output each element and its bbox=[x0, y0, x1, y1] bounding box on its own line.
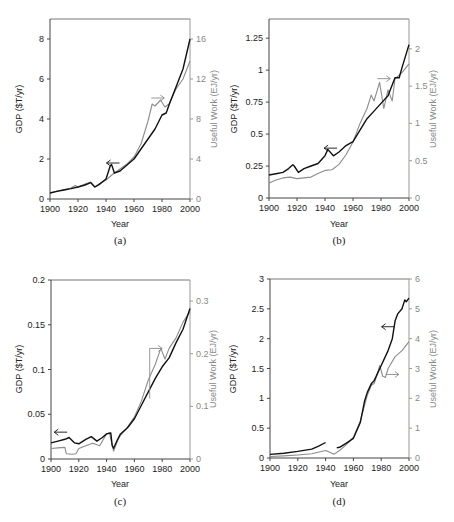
x-tick-label: 1920 bbox=[287, 203, 307, 213]
y-tick-label: 0 bbox=[259, 453, 264, 463]
useful-work-line bbox=[270, 342, 409, 457]
gdp-line bbox=[269, 45, 409, 175]
x-tick-label: 2000 bbox=[180, 464, 200, 474]
x-axis-label: Year bbox=[111, 479, 129, 489]
y-axis-label: GDP ($T/yr) bbox=[14, 345, 24, 393]
y-axis-right-label: Useful Work (EJ/yr) bbox=[208, 330, 218, 408]
caption: (b) bbox=[333, 234, 346, 247]
panel-a: (a) Year GDP ($T/yr) Useful Work (EJ/yr)… bbox=[14, 19, 219, 247]
caption: (a) bbox=[114, 234, 127, 247]
y-tick-label: 0.25 bbox=[245, 161, 263, 171]
x-tick-label: 1960 bbox=[124, 204, 144, 214]
x-tick-label: 1960 bbox=[343, 463, 363, 473]
y-tick-label: 0.1 bbox=[32, 365, 45, 375]
x-tick-label: 1980 bbox=[152, 204, 172, 214]
y-right-tick-label: 4 bbox=[196, 154, 201, 164]
x-tick-label: 1980 bbox=[371, 203, 391, 213]
x-tick-label: 1900 bbox=[41, 464, 61, 474]
x-tick-label: 1900 bbox=[259, 203, 279, 213]
y-right-tick-label: 6 bbox=[415, 274, 420, 284]
panel-b: (b) Year GDP ($T/yr) Useful Work (EJ/yr)… bbox=[229, 19, 438, 247]
y-axis-right-label: Useful Work (EJ/yr) bbox=[209, 70, 219, 148]
y-tick-label: 0.15 bbox=[27, 320, 45, 330]
y-tick-label: 0 bbox=[39, 194, 44, 204]
x-tick-label: 1980 bbox=[152, 464, 172, 474]
y-tick-label: 1.5 bbox=[251, 364, 264, 374]
y-right-tick-label: 0 bbox=[196, 454, 201, 464]
caption: (d) bbox=[333, 495, 346, 508]
y-tick-label: 0 bbox=[258, 193, 263, 203]
x-tick-label: 2000 bbox=[180, 204, 200, 214]
y-tick-label: 3 bbox=[259, 274, 264, 284]
y-tick-label: 2.5 bbox=[251, 304, 264, 314]
y-tick-label: 0.75 bbox=[245, 97, 263, 107]
useful-work-line bbox=[51, 312, 190, 455]
x-tick-label: 1920 bbox=[288, 463, 308, 473]
y-tick-label: 4 bbox=[39, 114, 44, 124]
y-right-tick-label: 1.5 bbox=[415, 81, 428, 91]
x-tick-label: 1900 bbox=[260, 463, 280, 473]
y-right-tick-label: 0.3 bbox=[196, 296, 209, 306]
y-right-tick-label: 0 bbox=[415, 453, 420, 463]
x-tick-label: 1940 bbox=[315, 203, 335, 213]
useful-work-line bbox=[269, 64, 409, 183]
y-tick-label: 0.05 bbox=[27, 409, 45, 419]
y-tick-label: 1 bbox=[259, 393, 264, 403]
panel-c: (c) Year GDP ($T/yr) Useful Work (EJ/yr)… bbox=[14, 275, 218, 508]
y-right-tick-label: 2 bbox=[415, 44, 420, 54]
y-tick-label: 1.25 bbox=[245, 33, 263, 43]
y-right-tick-label: 0 bbox=[196, 194, 201, 204]
y-tick-label: 0 bbox=[40, 454, 45, 464]
x-axis-label: Year bbox=[111, 219, 129, 229]
gdp-line bbox=[51, 309, 190, 449]
x-axis-label: Year bbox=[330, 479, 348, 489]
y-tick-label: 1 bbox=[258, 65, 263, 75]
y-right-tick-label: 8 bbox=[196, 114, 201, 124]
y-axis-label: GDP ($T/yr) bbox=[228, 345, 238, 393]
y-right-tick-label: 1 bbox=[415, 423, 420, 433]
gdp-line bbox=[50, 39, 190, 193]
y-tick-label: 2 bbox=[39, 154, 44, 164]
x-tick-label: 2000 bbox=[399, 463, 419, 473]
y-axis-label: GDP ($T/yr) bbox=[229, 85, 239, 133]
y-right-tick-label: 12 bbox=[196, 74, 206, 84]
x-tick-label: 1940 bbox=[316, 463, 336, 473]
x-tick-label: 1900 bbox=[40, 204, 60, 214]
y-right-tick-label: 0.1 bbox=[196, 401, 209, 411]
x-tick-label: 1940 bbox=[96, 204, 116, 214]
x-axis-label: Year bbox=[330, 219, 348, 229]
x-tick-label: 1920 bbox=[69, 464, 89, 474]
x-tick-label: 2000 bbox=[399, 203, 419, 213]
x-tick-label: 1920 bbox=[68, 204, 88, 214]
y-tick-label: 6 bbox=[39, 74, 44, 84]
y-right-tick-label: 1 bbox=[415, 118, 420, 128]
caption: (c) bbox=[114, 495, 127, 508]
gdp-line bbox=[337, 298, 409, 448]
x-tick-label: 1960 bbox=[343, 203, 363, 213]
x-tick-label: 1960 bbox=[124, 464, 144, 474]
y-right-tick-label: 3 bbox=[415, 364, 420, 374]
y-right-tick-label: 16 bbox=[196, 34, 206, 44]
useful-work-line bbox=[50, 61, 190, 193]
y-tick-label: 8 bbox=[39, 34, 44, 44]
y-tick-label: 0.5 bbox=[251, 423, 264, 433]
x-tick-label: 1940 bbox=[97, 464, 117, 474]
y-axis-label: GDP ($T/yr) bbox=[14, 85, 24, 133]
figure: (a) Year GDP ($T/yr) Useful Work (EJ/yr)… bbox=[0, 0, 454, 522]
y-right-tick-label: 0.5 bbox=[415, 156, 428, 166]
y-axis-right-label: Useful Work (EJ/yr) bbox=[428, 70, 438, 148]
panel-d: (d) Year GDP ($T/yr) Useful Work (EJ/yr)… bbox=[228, 274, 438, 508]
y-right-tick-label: 4 bbox=[415, 334, 420, 344]
y-axis-right-label: Useful Work (EJ/yr) bbox=[428, 330, 438, 408]
y-right-tick-label: 0 bbox=[415, 193, 420, 203]
y-tick-label: 0.5 bbox=[250, 129, 263, 139]
y-right-tick-label: 0.2 bbox=[196, 349, 209, 359]
y-right-tick-label: 2 bbox=[415, 393, 420, 403]
y-right-tick-label: 5 bbox=[415, 304, 420, 314]
y-tick-label: 0.2 bbox=[32, 275, 45, 285]
x-tick-label: 1980 bbox=[371, 463, 391, 473]
y-tick-label: 2 bbox=[259, 334, 264, 344]
